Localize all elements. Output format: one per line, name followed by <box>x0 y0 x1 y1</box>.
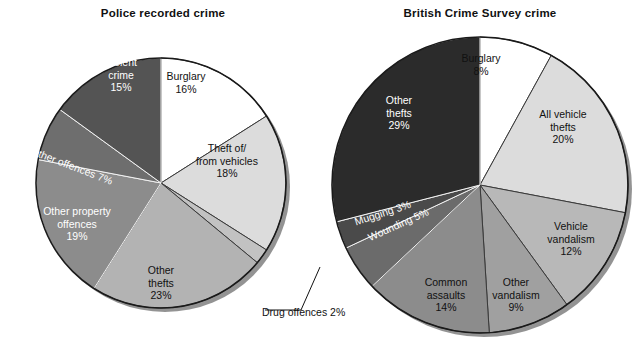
british-crime-survey-pie <box>313 0 643 351</box>
right-pie-svg <box>313 0 643 351</box>
